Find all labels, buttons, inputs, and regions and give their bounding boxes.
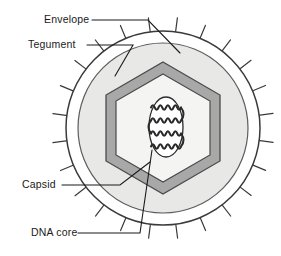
virus-diagram-canvas: Envelope Tegument Capsid DNA core — [0, 0, 281, 256]
label-envelope: Envelope — [44, 13, 89, 25]
label-dna-core: DNA core — [31, 226, 78, 238]
virus-structure-diagram: Envelope Tegument Capsid DNA core — [0, 0, 281, 256]
label-capsid: Capsid — [22, 178, 56, 190]
label-tegument: Tegument — [28, 38, 76, 50]
